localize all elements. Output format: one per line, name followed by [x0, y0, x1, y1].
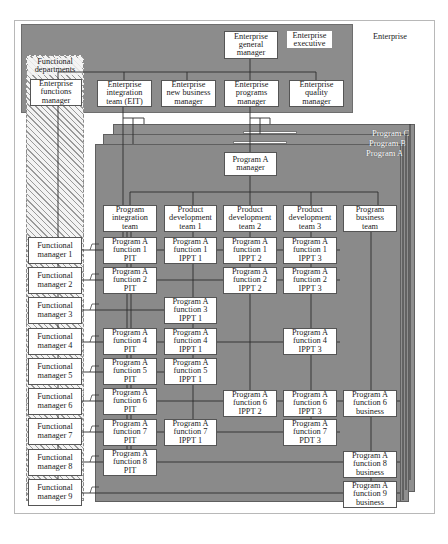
cell-f9-business-text: Program A function 9 business [352, 482, 388, 507]
team-pdt3-text: Product development team 3 [289, 206, 332, 231]
cell-f1-ippt1[interactable]: Program A function 1 IPPT 1 [164, 237, 217, 264]
cell-f1-ippt2-text: Program A function 1 IPPT 2 [232, 238, 268, 263]
cell-f8-pit[interactable]: Program A function 8 PIT [103, 449, 157, 476]
functional-manager-5-text: Functional manager 5 [37, 363, 73, 380]
functional-manager-1[interactable]: Functional manager 1 [28, 237, 82, 264]
cell-f4-ippt1-text: Program A function 4 IPPT 1 [172, 329, 208, 354]
team-pit-text: Program integration team [112, 206, 148, 231]
cell-f2-pit-text: Program A function 2 PIT [112, 268, 148, 293]
functional-manager-4[interactable]: Functional manager 4 [28, 328, 82, 355]
enterprise-new-business-manager-text: Enterprise new business manager [166, 81, 210, 106]
program-a-manager-box[interactable]: Program A manager [224, 152, 277, 176]
cell-f7-ippt1-text: Program A function 7 IPPT 1 [172, 420, 208, 445]
cell-f7-ippt1[interactable]: Program A function 7 IPPT 1 [164, 419, 217, 446]
cell-f8-business[interactable]: Program A function 8 business [343, 451, 397, 478]
functional-manager-6[interactable]: Functional manager 6 [28, 388, 82, 415]
cell-f1-ippt3[interactable]: Program A function 1 IPPT 3 [283, 237, 337, 264]
team-pit-box[interactable]: Program integration team [103, 205, 157, 232]
team-pdt1-text: Product development team 1 [169, 206, 212, 231]
cell-f5-ippt1-text: Program A function 5 IPPT 1 [172, 359, 208, 384]
cell-f6-ippt3-text: Program A function 6 IPPT 3 [292, 391, 328, 416]
functional-manager-9-text: Functional manager 9 [37, 484, 73, 501]
cell-f4-ippt3-text: Program A function 4 IPPT 3 [292, 329, 328, 354]
cell-f4-pit-text: Program A function 4 PIT [112, 329, 148, 354]
functional-manager-6-text: Functional manager 6 [37, 393, 73, 410]
functional-manager-3[interactable]: Functional manager 3 [28, 297, 82, 324]
cell-f3-ippt1-text: Program A function 3 IPPT 1 [172, 298, 208, 323]
cell-f7-pit[interactable]: Program A function 7 PIT [103, 419, 157, 446]
cell-f6-pit-text: Program A function 6 PIT [112, 389, 148, 414]
cell-f6-business[interactable]: Program A function 6 business [343, 390, 397, 417]
enterprise-quality-manager-box[interactable]: Enterprise quality manager [289, 80, 344, 107]
cell-f2-ippt3-text: Program A function 2 IPPT 3 [292, 268, 328, 293]
cell-f6-pit[interactable]: Program A function 6 PIT [103, 388, 157, 415]
team-business-text: Program business team [356, 206, 385, 231]
cell-f6-ippt2-text: Program A function 6 IPPT 2 [232, 391, 268, 416]
functional-manager-2[interactable]: Functional manager 2 [28, 267, 82, 294]
functional-manager-2-text: Functional manager 2 [37, 272, 73, 289]
functional-manager-8-text: Functional manager 8 [37, 454, 73, 471]
cell-f4-ippt1[interactable]: Program A function 4 IPPT 1 [164, 328, 217, 355]
cell-f8-business-text: Program A function 8 business [352, 452, 388, 477]
team-business-box[interactable]: Program business team [343, 205, 397, 232]
enterprise-programs-manager-text: Enterprise programs manager [234, 81, 268, 106]
cell-f5-ippt1[interactable]: Program A function 5 IPPT 1 [164, 358, 217, 385]
team-pdt1-box[interactable]: Product development team 1 [164, 205, 217, 232]
cell-f1-pit[interactable]: Program A function 1 PIT [103, 237, 157, 264]
cell-f7-pit-text: Program A function 7 PIT [112, 420, 148, 445]
team-pdt3-box[interactable]: Product development team 3 [283, 205, 337, 232]
enterprise-quality-manager-text: Enterprise quality manager [299, 81, 333, 106]
functional-manager-4-text: Functional manager 4 [37, 333, 73, 350]
cell-f2-pit[interactable]: Program A function 2 PIT [103, 267, 157, 294]
functional-manager-7[interactable]: Functional manager 7 [28, 418, 82, 445]
cell-f1-pit-text: Program A function 1 PIT [112, 238, 148, 263]
team-pdt2-box[interactable]: Product development team 2 [223, 205, 277, 232]
cell-f7-pdt3[interactable]: Program A function 7 PDT 3 [283, 419, 337, 446]
enterprise-programs-manager-box[interactable]: Enterprise programs manager [224, 80, 279, 107]
cell-f1-ippt2[interactable]: Program A function 1 IPPT 2 [223, 237, 277, 264]
team-pdt2-text: Product development team 2 [229, 206, 272, 231]
cell-f2-ippt2[interactable]: Program A function 2 IPPT 2 [223, 267, 277, 294]
functional-manager-1-text: Functional manager 1 [37, 242, 73, 259]
enterprise-functions-manager-box[interactable]: Enterprise functions manager [30, 79, 82, 106]
enterprise-functions-manager-text: Enterprise functions manager [39, 80, 73, 105]
cell-f1-ippt1-text: Program A function 1 IPPT 1 [172, 238, 208, 263]
functional-manager-5[interactable]: Functional manager 5 [28, 358, 82, 385]
enterprise-eit-box[interactable]: Enterprise integration team (EIT) [97, 80, 152, 107]
cell-f2-ippt3[interactable]: Program A function 2 IPPT 3 [283, 267, 337, 294]
functional-manager-3-text: Functional manager 3 [37, 302, 73, 319]
functional-manager-9[interactable]: Functional manager 9 [28, 479, 82, 506]
enterprise-new-business-manager-box[interactable]: Enterprise new business manager [161, 80, 216, 107]
cell-f8-pit-text: Program A function 8 PIT [112, 450, 148, 475]
cell-f3-ippt1[interactable]: Program A function 3 IPPT 1 [164, 297, 217, 324]
cell-f6-ippt3[interactable]: Program A function 6 IPPT 3 [283, 390, 337, 417]
cell-f1-ippt3-text: Program A function 1 IPPT 3 [292, 238, 328, 263]
enterprise-general-manager-box[interactable]: Enterprise general manager [224, 31, 278, 59]
functional-manager-7-text: Functional manager 7 [37, 423, 73, 440]
cell-f4-ippt3[interactable]: Program A function 4 IPPT 3 [283, 328, 337, 355]
cell-f9-business[interactable]: Program A function 9 business [343, 481, 397, 508]
cell-f4-pit[interactable]: Program A function 4 PIT [103, 328, 157, 355]
cell-f7-pdt3-text: Program A function 7 PDT 3 [292, 420, 328, 445]
cell-f6-business-text: Program A function 6 business [352, 391, 388, 416]
cell-f2-ippt2-text: Program A function 2 IPPT 2 [232, 268, 268, 293]
cell-f5-pit[interactable]: Program A function 5 PIT [103, 358, 157, 385]
cell-f5-pit-text: Program A function 5 PIT [112, 359, 148, 384]
functional-manager-8[interactable]: Functional manager 8 [28, 449, 82, 476]
cell-f6-ippt2[interactable]: Program A function 6 IPPT 2 [223, 390, 277, 417]
program-a-manager-text: Program A manager [232, 156, 268, 173]
enterprise-eit-text: Enterprise integration team (EIT) [106, 81, 143, 106]
enterprise-general-manager-text: Enterprise general manager [234, 33, 268, 58]
